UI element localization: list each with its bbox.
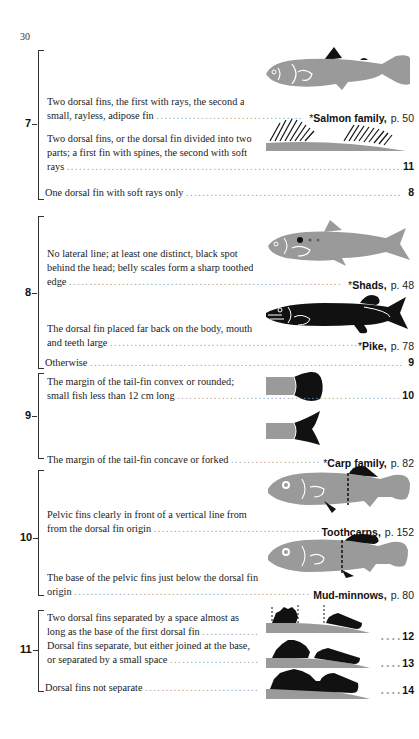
key-entry-text: Dorsal fins separate, but either joined …	[47, 639, 250, 653]
key-entry-text: The margin of the tail-fin concave or fo…	[47, 454, 228, 465]
key-entry-leader: small, rayless, adipose fin ............…	[47, 109, 302, 123]
bracket-couplet-7	[38, 50, 39, 200]
goto-couplet-10[interactable]: 10	[402, 389, 414, 401]
goto-number: 12	[402, 630, 414, 642]
key-entry-leader: origin .................................…	[47, 585, 309, 599]
key-entry-leader: Otherwise ..............................…	[45, 356, 402, 370]
key-entry-text: and teeth large	[47, 337, 107, 348]
dot-leader: ........................................…	[110, 337, 357, 348]
dot-leader: ........................................…	[145, 682, 259, 693]
key-entry-text: The margin of the tail-fin convex or rou…	[47, 375, 234, 389]
result-name: Mud-minnows,	[313, 589, 387, 601]
goto-couplet-12[interactable]: ....12	[380, 626, 414, 644]
key-entry-text: Otherwise	[45, 357, 87, 368]
dot-leader: ....	[380, 626, 402, 643]
key-entry-text: Pelvic fins clearly in front of a vertic…	[47, 508, 247, 522]
salmon-fish-illustration	[264, 44, 414, 94]
goto-number: 14	[402, 684, 414, 696]
goto-couplet-14[interactable]: ....14	[380, 680, 414, 698]
key-entry-text: Two dorsal fins, or the dorsal fin divid…	[47, 132, 252, 146]
bracket-couplet-9	[38, 373, 39, 459]
toothcarp-fish-illustration	[266, 463, 416, 523]
forked-tail-illustration	[266, 411, 326, 447]
key-entry-text: small, rayless, adipose fin	[47, 110, 154, 121]
key-entry-leader: long as the base of the first dorsal fin…	[47, 625, 259, 639]
dot-leader: ....	[380, 653, 402, 670]
couplet-number-10: 10	[20, 531, 32, 543]
result-name: Pike,	[362, 340, 387, 352]
key-entry-text: One dorsal fin with soft rays only	[45, 187, 183, 198]
result-mud-minnows[interactable]: Mud-minnows, p. 80	[313, 585, 414, 603]
goto-couplet-13[interactable]: ....13	[380, 653, 414, 671]
key-entry-leader: rays ...................................…	[47, 160, 402, 174]
key-entry-leader: One dorsal fin with soft rays only .....…	[45, 186, 402, 200]
key-entry-text: The dorsal fin placed far back on the bo…	[47, 322, 252, 336]
key-entry-text: small fish less than 12 cm long	[47, 390, 175, 401]
bracket-couplet-11	[38, 610, 39, 692]
couplet-number-7: 7	[25, 117, 31, 129]
dot-leader: ........................................…	[186, 187, 402, 198]
dot-leader: ........................................…	[177, 390, 402, 401]
key-entry-text: origin	[47, 586, 72, 597]
dot-leader: ........................................…	[69, 276, 342, 287]
page-ref: p. 78	[391, 340, 414, 352]
page-number: 30	[20, 31, 30, 42]
couplet-number-9: 9	[25, 409, 31, 421]
key-entry-text: Two dorsal fins separated by a space alm…	[47, 611, 239, 625]
key-entry-text: long as the base of the first dorsal fin	[47, 626, 200, 637]
result-pike[interactable]: *Pike, p. 78	[358, 336, 414, 354]
dot-leader: ....	[380, 680, 402, 697]
key-entry-leader: edge ...................................…	[47, 275, 342, 289]
goto-couplet-9[interactable]: 9	[408, 356, 414, 368]
dot-leader: ........................................…	[67, 161, 402, 172]
bracket-couplet-8	[38, 216, 39, 369]
goto-couplet-8[interactable]: 8	[408, 186, 414, 198]
fins-joined-illustration	[266, 663, 376, 701]
key-entry-text: from the dorsal fin origin	[47, 523, 151, 534]
key-entry-text: The base of the pelvic fins just below t…	[47, 571, 258, 585]
key-entry-text: rays	[47, 161, 64, 172]
key-entry-text: behind the head; belly scales form a sha…	[47, 261, 253, 275]
pike-fish-illustration	[264, 289, 414, 339]
page-ref: p. 80	[391, 589, 414, 601]
key-entry-leader: or separated by a small space ..........…	[47, 653, 259, 667]
key-entry-leader: Dorsal fins not separate ...............…	[45, 681, 259, 695]
key-entry-leader: and teeth large ........................…	[47, 336, 357, 350]
key-entry-text: edge	[47, 276, 66, 287]
dot-leader: ........................................…	[90, 357, 402, 368]
mudminnow-fish-illustration	[266, 530, 416, 588]
key-entry-text: No lateral line; at least one distinct, …	[47, 247, 238, 261]
key-entry-text: or separated by a small space	[47, 654, 167, 665]
couplet-number-11: 11	[20, 643, 32, 655]
dot-leader: ........................................…	[74, 586, 309, 597]
spiny-dorsal-fins-illustration	[266, 117, 416, 155]
key-entry-leader: small fish less than 12 cm long ........…	[47, 389, 402, 403]
fins-separated-wide-illustration	[266, 603, 376, 635]
dot-leader: ........................................…	[202, 626, 259, 637]
couplet-number-8: 8	[25, 286, 31, 298]
dot-leader: ........................................…	[170, 654, 259, 665]
key-entry-text: Two dorsal fins, the first with rays, th…	[47, 95, 244, 109]
goto-number: 13	[402, 657, 414, 669]
bracket-couplet-10	[38, 470, 39, 596]
goto-couplet-11[interactable]: 11	[403, 160, 414, 172]
key-entry-text: Dorsal fins not separate	[45, 682, 143, 693]
key-entry-text: parts; a first fin with spines, the seco…	[47, 146, 247, 160]
shad-fish-illustration	[266, 218, 416, 270]
